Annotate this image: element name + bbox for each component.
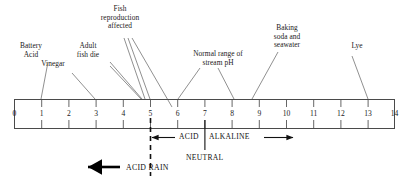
tick-label-6: 6	[176, 110, 180, 118]
leader-battery-acid	[41, 62, 48, 99]
alkaline-zone-label: ALKALINE	[209, 133, 250, 141]
tick-label-12: 12	[337, 110, 345, 118]
tick-label-11: 11	[310, 110, 317, 118]
leader-vinegar	[72, 73, 95, 99]
leader-normal-range-right	[218, 68, 234, 99]
leader-baking-soda	[252, 52, 278, 99]
tick-label-14: 14	[391, 110, 399, 118]
ph-scale-diagram: Battery Acid Vinegar Adult fish die Fish…	[0, 0, 412, 185]
tick-label-3: 3	[94, 110, 98, 118]
acid-rain-label: ACID RAIN	[126, 163, 169, 172]
tick-label-2: 2	[67, 110, 71, 118]
tick-label-0: 0	[13, 110, 17, 118]
tick-label-1: 1	[40, 110, 44, 118]
tick-label-5: 5	[149, 110, 153, 118]
leader-fish-reproduction-c	[132, 38, 172, 107]
tick-label-10: 10	[283, 110, 291, 118]
tick-label-8: 8	[230, 110, 234, 118]
neutral-zone-label: NEUTRAL	[186, 154, 224, 162]
leader-adult-fish-die-b	[110, 66, 142, 100]
tick-label-4: 4	[121, 110, 125, 118]
leader-normal-range-left	[178, 68, 200, 99]
leader-adult-fish-die-a	[110, 62, 142, 99]
tick-label-7: 7	[203, 110, 207, 118]
tick-label-9: 9	[257, 110, 261, 118]
tick-label-13: 13	[364, 110, 372, 118]
leader-fish-reproduction-b	[128, 38, 150, 99]
acid-zone-label: ACID	[179, 133, 199, 141]
leader-lye	[352, 56, 368, 99]
